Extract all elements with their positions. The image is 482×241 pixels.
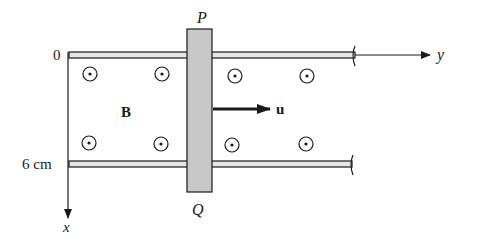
label-y-axis: y (435, 46, 445, 64)
label-rail-separation: 6 cm (22, 156, 52, 172)
field-out-of-page-icon (154, 137, 168, 151)
field-out-of-page-icon (225, 138, 239, 152)
sliding-bar-pq (187, 29, 212, 192)
field-out-of-page-icon (82, 136, 96, 150)
label-velocity-u: u (276, 101, 284, 117)
label-origin: 0 (53, 47, 61, 63)
field-out-of-page-icon (83, 67, 97, 81)
field-out-of-page-icon (155, 67, 169, 81)
field-out-of-page-icon (299, 137, 313, 151)
field-out-of-page-icon (228, 69, 242, 83)
sliding-bar-diagram: P Q 0 6 cm x y B u (0, 0, 482, 241)
label-field-b: B (121, 104, 131, 120)
field-out-of-page-icon (300, 69, 314, 83)
label-q: Q (192, 201, 204, 218)
label-x-axis: x (62, 219, 70, 235)
label-p: P (196, 9, 207, 26)
